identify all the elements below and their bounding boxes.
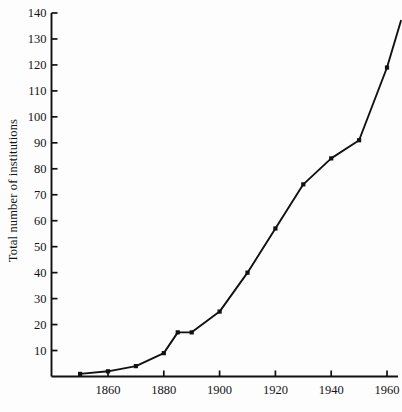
data-line-series	[80, 21, 401, 374]
y-axis-tick-label: 70	[34, 187, 47, 202]
data-point-marker	[218, 309, 222, 313]
y-axis-tick-label: 90	[34, 135, 47, 150]
x-axis-tick-label: 1880	[151, 383, 176, 398]
line-chart-plot	[0, 0, 402, 412]
y-axis-tick-label: 140	[28, 6, 47, 21]
y-axis-tick-label: 80	[34, 161, 47, 176]
data-point-marker	[357, 138, 361, 142]
data-point-marker	[78, 372, 82, 376]
data-point-marker	[245, 271, 249, 275]
data-point-marker	[329, 156, 333, 160]
y-axis-tick-label: 100	[28, 109, 47, 124]
data-point-marker	[273, 226, 277, 230]
x-axis-tick-label: 1940	[319, 383, 344, 398]
data-point-marker	[106, 369, 110, 373]
data-point-marker	[176, 330, 180, 334]
x-axis-tick-label: 1920	[263, 383, 288, 398]
y-axis-tick-label: 120	[28, 57, 47, 72]
data-point-marker	[162, 351, 166, 355]
x-axis-tick-label: 1860	[96, 383, 121, 398]
y-axis-tick-label: 10	[34, 343, 47, 358]
y-axis-tick-label: 40	[34, 265, 47, 280]
data-point-marker	[190, 330, 194, 334]
data-point-markers	[78, 65, 389, 376]
data-point-marker	[385, 65, 389, 69]
chart-figure: Total number of institutions 10203040506…	[0, 0, 402, 412]
axis-spines	[52, 13, 399, 377]
y-axis-tick-label: 50	[34, 239, 47, 254]
x-axis-tick-label: 1900	[207, 383, 232, 398]
y-axis-tick-label: 30	[34, 291, 47, 306]
y-axis-tick-label: 60	[34, 213, 47, 228]
y-axis-tick-label: 110	[28, 83, 46, 98]
y-axis-tick-label: 130	[28, 31, 47, 46]
x-axis-tick-label: 1960	[375, 383, 400, 398]
y-axis-tick-label: 20	[34, 317, 47, 332]
data-point-marker	[134, 364, 138, 368]
data-point-marker	[301, 182, 305, 186]
